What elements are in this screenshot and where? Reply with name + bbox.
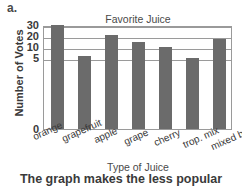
- bars-layer: [44, 27, 231, 129]
- y-axis-tick-labels: 30201050: [0, 26, 42, 130]
- plot-area: [43, 26, 232, 130]
- chart-title: Favorite Juice: [44, 13, 232, 25]
- bar-chart-figure: Favorite Juice Number of Votes 30201050 …: [0, 13, 242, 171]
- bar-mixed-berry: [213, 39, 226, 129]
- category-label-grape: grape: [122, 126, 150, 146]
- bar-grape: [132, 42, 145, 130]
- y-tick-label-5: 5: [0, 53, 39, 64]
- bar-cherry: [159, 47, 172, 129]
- bar-orange: [51, 25, 64, 129]
- bar-grapefruit: [78, 56, 91, 129]
- caption-text: The graph makes the less popular: [0, 172, 242, 186]
- bar-apple: [105, 35, 118, 129]
- bar-trop-mix: [186, 58, 199, 129]
- category-label-cherry: cherry: [152, 127, 182, 148]
